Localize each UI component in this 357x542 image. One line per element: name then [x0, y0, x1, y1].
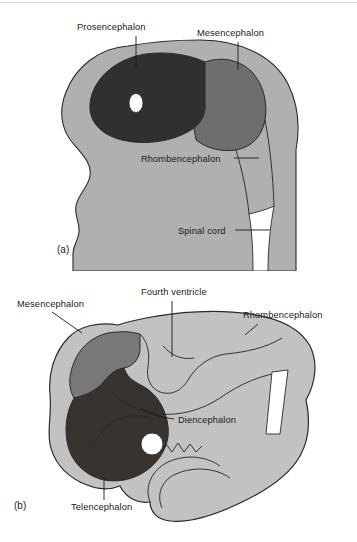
label-spinal-cord: Spinal cord — [178, 226, 226, 236]
label-telencephalon: Telencephalon — [71, 502, 132, 512]
panel-b: Mesencephalon Fourth ventricle Rhombence… — [0, 271, 357, 542]
label-prosencephalon: Prosencephalon — [77, 22, 146, 32]
label-mesencephalon-a: Mesencephalon — [197, 28, 264, 38]
panel-a: Prosencephalon Mesencephalon Rhombenceph… — [0, 0, 357, 271]
leader-mesencephalon-b — [52, 312, 82, 333]
brain-development-figure: Prosencephalon Mesencephalon Rhombenceph… — [0, 0, 357, 542]
label-mesencephalon-b: Mesencephalon — [17, 299, 84, 309]
label-fourth-ventricle: Fourth ventricle — [141, 287, 207, 297]
label-diencephalon: Diencephalon — [178, 415, 236, 425]
panel-tag-b: (b) — [14, 500, 26, 511]
label-rhombencephalon-b: Rhombencephalon — [243, 310, 323, 320]
panel-tag-a: (a) — [57, 244, 69, 255]
panel-a-optic-vesicle — [129, 94, 143, 113]
label-rhombencephalon-a: Rhombencephalon — [141, 154, 221, 164]
